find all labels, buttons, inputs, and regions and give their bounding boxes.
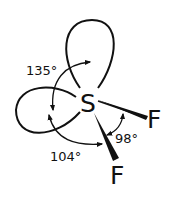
lone-pair-lobe-left [16,88,80,133]
angle-label-104: 104° [50,149,81,164]
angle-label-135: 135° [26,63,57,78]
atom-f-bottom-label: F [110,161,124,190]
sf2-diagram: S F F 135° 104° 98° [0,0,171,203]
angle-label-98: 98° [115,131,138,146]
atom-s-label: S [80,89,96,118]
atom-f-right-label: F [147,105,161,134]
lone-pair-lobe-top [66,20,114,88]
